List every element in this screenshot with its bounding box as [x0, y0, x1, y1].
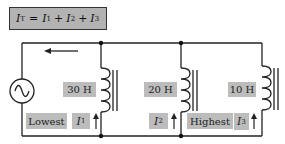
- eq-lhs-sub: T: [20, 15, 25, 23]
- junction-dot: [99, 134, 103, 138]
- equation-box: IT = I1 + I2 + I3: [9, 7, 107, 30]
- magnitude-label-highest: Highest: [187, 113, 233, 129]
- junction-dot: [179, 41, 183, 45]
- eq-term-3-sub: 3: [95, 15, 99, 23]
- junction-dot: [179, 134, 183, 138]
- eq-equals: =: [29, 12, 38, 25]
- inductance-label-2: 20 H: [144, 82, 177, 97]
- arrowhead-up-icon: [93, 113, 99, 119]
- arrowhead-up-icon: [171, 113, 177, 119]
- current-sub: 3: [241, 118, 245, 126]
- inductor-coil-30h: [101, 68, 110, 112]
- eq-plus: +: [78, 12, 87, 25]
- magnitude-label-lowest: Lowest: [26, 113, 67, 129]
- eq-term-1-sub: 1: [47, 15, 51, 23]
- sine-wave-icon: [15, 86, 29, 97]
- current-label-i3: I3: [234, 113, 249, 130]
- current-sub: 1: [81, 117, 85, 125]
- eq-plus: +: [54, 12, 63, 25]
- current-label-i1: I1: [72, 113, 90, 129]
- current-label-i2: I2: [149, 113, 168, 129]
- junction-dot: [99, 41, 103, 45]
- inductor-coil-20h: [181, 68, 190, 112]
- arrowhead-up-icon: [251, 113, 257, 119]
- inductor-coil-10h: [262, 66, 271, 110]
- current-sub: 2: [158, 117, 162, 125]
- eq-term-2-sub: 2: [71, 15, 75, 23]
- inductance-label-1: 30 H: [63, 82, 96, 97]
- arrowhead-left-icon: [44, 48, 51, 54]
- inductance-label-3: 10 H: [228, 82, 256, 97]
